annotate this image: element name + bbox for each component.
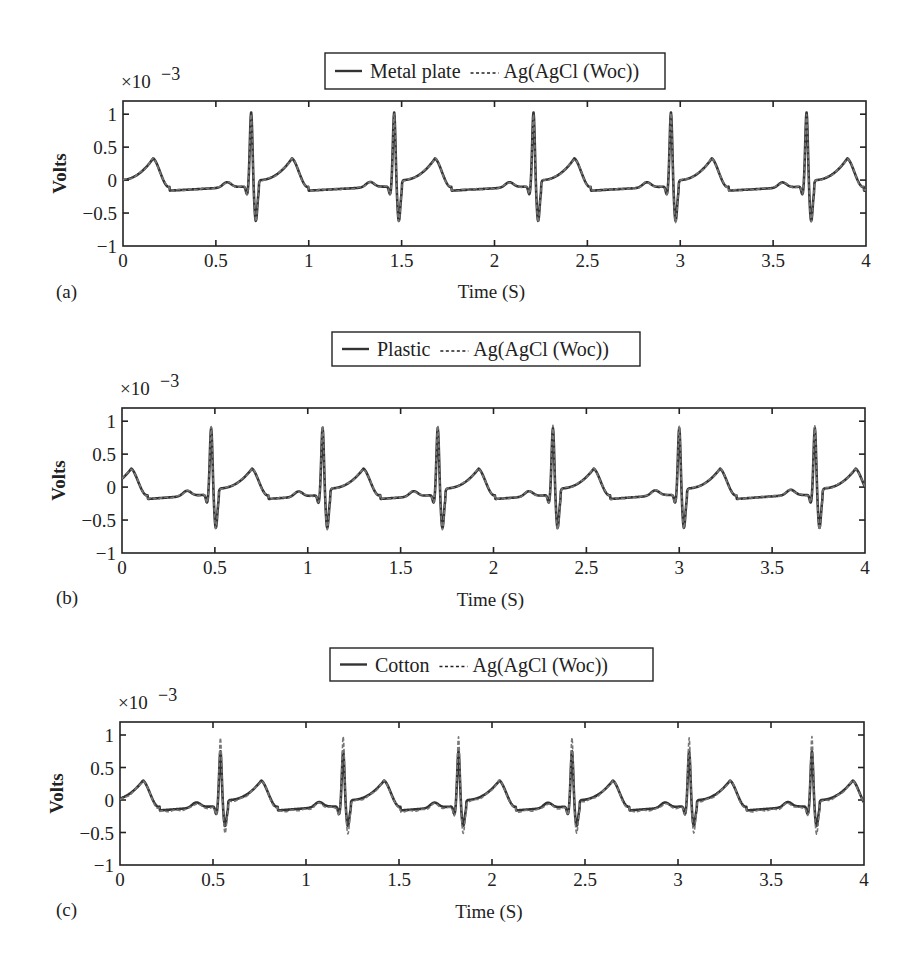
chart-panel-a: 00.511.522.533.5410.50−0.5−1×10−3VoltsTi… <box>49 53 871 303</box>
y-tick-label: −0.5 <box>83 203 117 224</box>
legend: CottonAg(AgCl (Woc)) <box>330 648 653 681</box>
plot-frame <box>123 101 866 246</box>
y-tick-label: −0.5 <box>80 823 114 844</box>
legend-label-reference: Ag(AgCl (Woc)) <box>504 60 640 83</box>
x-tick-label: 1 <box>304 250 314 271</box>
x-tick-label: 0 <box>117 557 127 578</box>
x-tick-label: 3 <box>676 250 686 271</box>
series-line-reference <box>122 425 865 529</box>
x-tick-label: 3 <box>675 557 685 578</box>
series-line-electrode <box>123 112 866 220</box>
y-tick-label: 0.5 <box>92 444 116 465</box>
y-tick-label: 0 <box>107 477 117 498</box>
plot-frame <box>120 722 864 865</box>
legend: PlasticAg(AgCl (Woc)) <box>332 332 640 366</box>
x-axis-label: Time (S) <box>457 589 524 611</box>
panel-letter: (b) <box>56 587 78 609</box>
y-tick-label: 0.5 <box>93 137 117 158</box>
y-tick-label: 1 <box>108 104 118 125</box>
x-axis-label: Time (S) <box>455 901 522 923</box>
panel-letter: (a) <box>56 281 77 303</box>
y-exponent: −3 <box>160 371 179 391</box>
x-tick-label: 1 <box>303 557 313 578</box>
x-tick-label: 4 <box>861 250 871 271</box>
x-tick-label: 0.5 <box>204 250 228 271</box>
y-tick-label: −1 <box>94 855 114 876</box>
x-tick-label: 3.5 <box>761 250 785 271</box>
x-tick-label: 3.5 <box>760 557 784 578</box>
y-axis-label: Volts <box>49 153 70 193</box>
legend-label-reference: Ag(AgCl (Woc)) <box>473 338 609 361</box>
series-line-electrode <box>122 428 865 528</box>
y-tick-label: 0.5 <box>90 758 114 779</box>
x-tick-label: 4 <box>860 557 870 578</box>
x-tick-label: 0 <box>118 250 128 271</box>
x-tick-label: 1 <box>301 869 311 890</box>
y-multiplier: ×10 <box>118 692 148 713</box>
x-tick-label: 0.5 <box>201 869 225 890</box>
y-axis-label: Volts <box>48 460 69 500</box>
series-line-reference <box>120 737 864 835</box>
x-tick-label: 2.5 <box>575 557 599 578</box>
x-tick-label: 2 <box>490 250 500 271</box>
series-line-electrode <box>120 751 864 826</box>
x-tick-label: 1.5 <box>389 557 413 578</box>
legend-label-electrode: Plastic <box>377 338 430 360</box>
y-exponent: −3 <box>158 685 177 705</box>
x-tick-label: 3 <box>673 869 683 890</box>
x-axis-label: Time (S) <box>458 281 525 303</box>
ecg-figure: 00.511.522.533.5410.50−0.5−1×10−3VoltsTi… <box>0 0 922 962</box>
x-tick-label: 4 <box>859 869 869 890</box>
plot-frame <box>122 408 865 553</box>
legend-label-electrode: Cotton <box>375 654 429 676</box>
y-exponent: −3 <box>161 64 180 84</box>
legend: Metal plateAg(AgCl (Woc)) <box>325 53 665 89</box>
x-tick-label: 0.5 <box>203 557 227 578</box>
y-tick-label: −1 <box>97 236 117 257</box>
panel-letter: (c) <box>56 899 77 921</box>
y-tick-label: −1 <box>96 543 116 564</box>
x-tick-label: 0 <box>115 869 125 890</box>
legend-label-reference: Ag(AgCl (Woc)) <box>472 654 608 677</box>
y-multiplier: ×10 <box>120 378 150 399</box>
y-tick-label: −0.5 <box>82 510 116 531</box>
x-tick-label: 2.5 <box>573 869 597 890</box>
y-tick-label: 1 <box>107 411 117 432</box>
y-axis-label: Volts <box>46 773 67 813</box>
y-tick-label: 0 <box>108 170 118 191</box>
x-tick-label: 1.5 <box>390 250 414 271</box>
x-tick-label: 2.5 <box>576 250 600 271</box>
x-tick-label: 2 <box>489 557 499 578</box>
chart-panel-b: 00.511.522.533.5410.50−0.5−1×10−3VoltsTi… <box>48 332 870 611</box>
x-tick-label: 3.5 <box>759 869 783 890</box>
x-tick-label: 2 <box>487 869 497 890</box>
chart-panel-c: 00.511.522.533.5410.50−0.5−1×10−3VoltsTi… <box>46 648 869 923</box>
y-multiplier: ×10 <box>121 71 151 92</box>
legend-label-electrode: Metal plate <box>370 60 461 83</box>
series-line-reference <box>123 113 866 222</box>
x-tick-label: 1.5 <box>387 869 411 890</box>
y-tick-label: 0 <box>105 790 115 811</box>
y-tick-label: 1 <box>105 725 115 746</box>
